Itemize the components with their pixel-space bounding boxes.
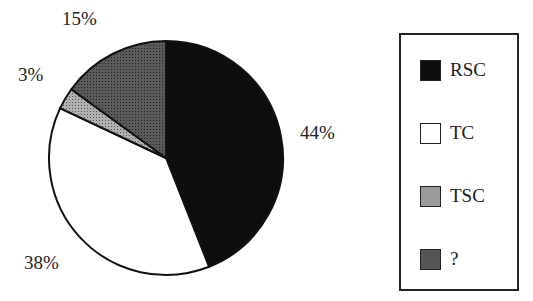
legend-item-rsc: RSC xyxy=(420,59,486,81)
legend-swatch-rsc xyxy=(420,60,441,81)
legend-item-tc: TC xyxy=(420,122,474,144)
legend-label: ? xyxy=(450,248,458,270)
label-unknown-pct: 15% xyxy=(62,8,97,30)
legend-label: TSC xyxy=(450,185,485,207)
pie-chart xyxy=(0,0,400,301)
legend-label: TC xyxy=(450,122,474,144)
label-tc-pct: 38% xyxy=(24,252,59,274)
legend-item-tsc: TSC xyxy=(420,185,485,207)
legend-item-unknown: ? xyxy=(420,248,458,270)
legend-swatch-tsc xyxy=(420,186,441,207)
legend-swatch-tc xyxy=(420,123,441,144)
label-tsc-pct: 3% xyxy=(18,64,43,86)
legend: RSC TC TSC ? xyxy=(399,33,519,291)
pie-slices xyxy=(49,41,283,275)
legend-swatch-unknown xyxy=(420,249,441,270)
legend-label: RSC xyxy=(450,59,486,81)
label-rsc-pct: 44% xyxy=(300,122,335,144)
